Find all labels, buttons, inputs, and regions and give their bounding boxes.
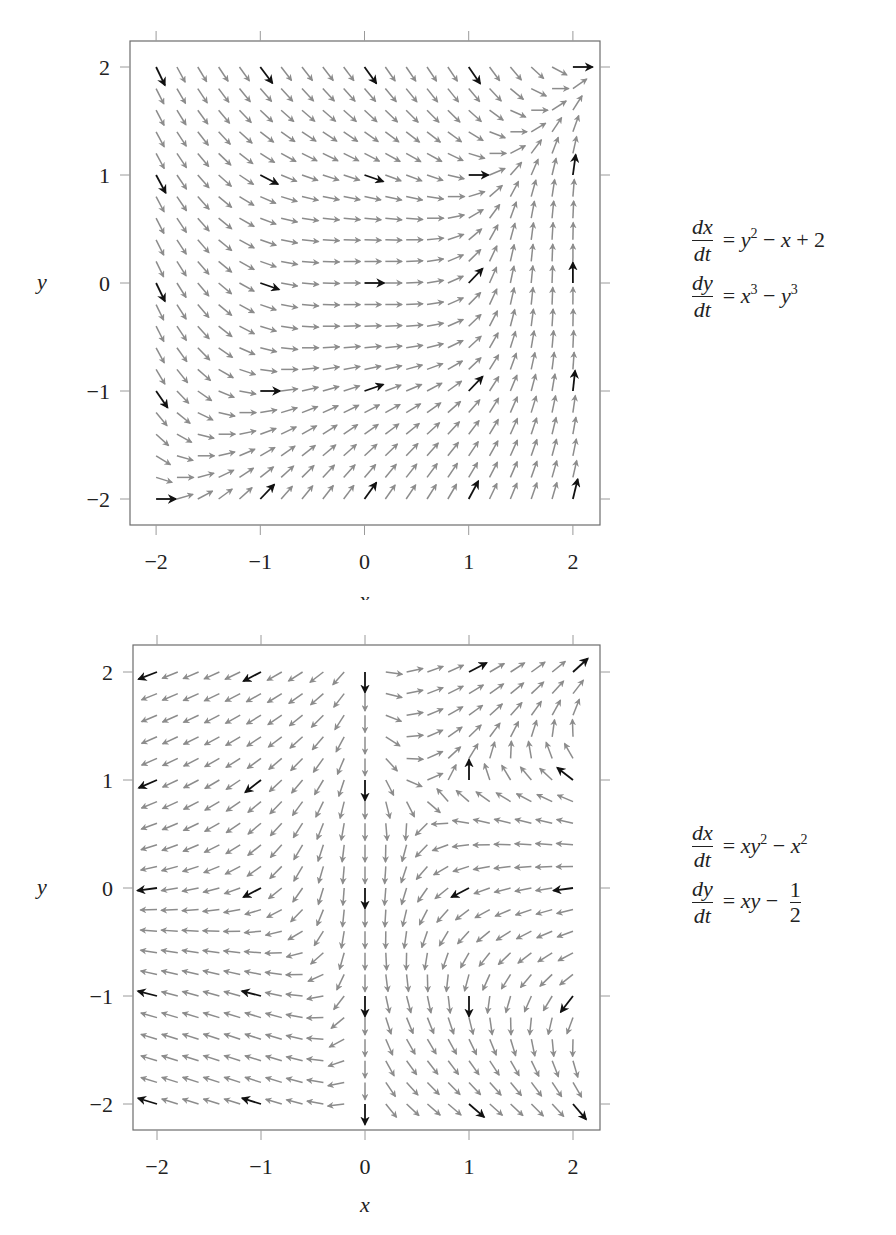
- vector-arrow: [515, 866, 532, 867]
- vector-arrow: [552, 417, 556, 434]
- vector-arrow: [531, 223, 533, 240]
- vector-arrow: [427, 1018, 433, 1034]
- y-tick-label: 0: [99, 271, 110, 296]
- vector-arrow: [281, 389, 298, 391]
- y-tick-label: −1: [90, 984, 113, 1009]
- vector-arrow: [494, 866, 511, 868]
- vector-arrow: [385, 366, 401, 370]
- vector-arrow: [219, 89, 229, 103]
- vector-arrow: [385, 197, 401, 200]
- vector-arrow: [302, 67, 312, 80]
- vector-arrow: [469, 725, 481, 737]
- vector-arrow: [427, 773, 442, 780]
- vector-arrow: [198, 491, 213, 499]
- vector-arrow: [162, 1034, 178, 1039]
- vector-arrow: [558, 953, 573, 961]
- vector-arrow: [142, 694, 157, 700]
- vector-arrow: [490, 311, 498, 326]
- vector-arrow: [477, 931, 490, 942]
- vector-arrow: [496, 793, 510, 802]
- vector-arrow: [323, 89, 335, 101]
- vector-arrow: [448, 132, 462, 142]
- vector-arrow: [552, 352, 554, 369]
- vector-arrow: [239, 240, 254, 248]
- equation-dy-dt-bottom: dy dt = xy − 1 2: [690, 874, 807, 930]
- vector-arrow: [302, 175, 318, 181]
- vector-arrow: [161, 888, 177, 891]
- vector-arrow: [448, 1082, 460, 1094]
- vector-arrow: [286, 1035, 302, 1039]
- vector-arrow: [260, 240, 276, 246]
- vector-arrow: [245, 971, 261, 974]
- vector-arrow: [317, 910, 323, 926]
- vector-arrow: [552, 331, 554, 348]
- vector-arrow: [270, 802, 282, 814]
- vector-arrow: [219, 132, 231, 144]
- vector-arrow-highlight: [469, 663, 487, 672]
- vector-arrow: [342, 910, 344, 927]
- vector-arrow: [177, 391, 189, 403]
- vector-arrow: [385, 404, 400, 412]
- vector-arrow: [427, 89, 438, 102]
- vector-arrow: [435, 888, 448, 899]
- vector-arrow: [224, 992, 240, 996]
- vector-arrow: [406, 444, 418, 456]
- vector-arrow: [515, 844, 532, 845]
- equation-rhs: = x3 − y3: [723, 283, 798, 309]
- vector-arrow: [177, 348, 187, 362]
- vector-arrow: [385, 153, 400, 161]
- vector-arrow: [573, 116, 579, 132]
- vector-arrow: [490, 267, 497, 283]
- vector-arrow: [453, 866, 469, 871]
- vector-arrow: [406, 261, 423, 262]
- vector-arrow: [162, 694, 177, 701]
- vector-arrow: [204, 694, 219, 701]
- vector-arrow: [266, 1099, 282, 1104]
- vector-arrow: [198, 175, 209, 188]
- vector-arrow: [385, 67, 395, 81]
- derivative-fraction: dx dt: [690, 821, 715, 872]
- vector-arrow: [557, 820, 573, 824]
- vector-arrow: [448, 1104, 461, 1115]
- vector-arrow: [198, 132, 209, 145]
- vector-arrow-highlight: [365, 175, 384, 181]
- vector-arrow: [177, 175, 187, 189]
- vector-arrow: [198, 110, 208, 124]
- vector-arrow: [219, 326, 232, 336]
- vector-arrow: [365, 465, 376, 478]
- vector-arrow: [260, 428, 276, 434]
- vector-arrow: [156, 326, 164, 341]
- vector-arrow: [552, 287, 553, 304]
- vector-arrow: [448, 484, 457, 499]
- vector-arrow-highlight: [156, 175, 166, 193]
- vector-arrow: [407, 996, 411, 1013]
- vector-arrow: [184, 758, 199, 766]
- vector-arrow: [502, 765, 511, 780]
- vector-arrow: [490, 110, 504, 120]
- vector-arrow: [239, 488, 252, 499]
- vector-arrow: [289, 715, 302, 726]
- vector-arrow: [344, 175, 360, 180]
- vector-arrow: [281, 175, 296, 181]
- vector-arrow: [365, 444, 377, 456]
- vector-arrow: [386, 694, 402, 698]
- vector-arrow: [385, 385, 401, 391]
- vector-arrow: [406, 89, 417, 102]
- vector-arrow: [531, 396, 536, 412]
- vector-arrow: [344, 89, 355, 102]
- vector-arrow: [448, 381, 462, 391]
- vector-arrow: [496, 931, 510, 940]
- vector-arrow: [161, 930, 178, 931]
- vector-arrow: [448, 1039, 456, 1054]
- vector-arrow: [344, 465, 355, 478]
- vector-arrow: [302, 368, 319, 370]
- vector-arrow: [448, 686, 463, 693]
- vector-arrow: [406, 423, 419, 434]
- vector-arrow: [302, 486, 313, 499]
- vector-arrow: [573, 96, 582, 110]
- vector-arrow-highlight: [245, 780, 261, 792]
- vector-arrow: [546, 742, 552, 758]
- vector-arrow: [291, 910, 303, 922]
- vector-arrow: [344, 67, 354, 81]
- vector-arrow: [260, 89, 271, 102]
